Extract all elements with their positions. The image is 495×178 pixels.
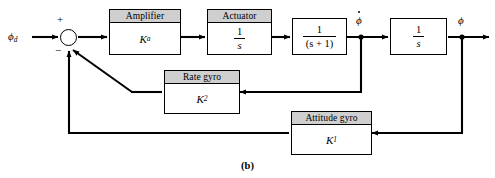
input-signal-label: ϕd: [8, 30, 17, 44]
block-rate-gyro: Rate gyro K2: [164, 70, 240, 114]
actuator-denominator: s: [234, 38, 244, 51]
junction-dot-phi: [459, 34, 464, 39]
junction-dot-phidot: [358, 34, 363, 39]
rate-signal-label: ϕ: [356, 14, 362, 26]
summing-junction: [60, 29, 77, 46]
block-integrator: 1 s: [390, 18, 447, 55]
actuator-numerator: 1: [234, 26, 245, 38]
output-signal-label: ϕ: [458, 14, 464, 26]
block-amplifier-header: Amplifier: [110, 10, 180, 23]
block-actuator-transfer-function: 1 s: [208, 23, 271, 54]
block-integrator-transfer-function: 1 s: [391, 19, 446, 54]
sum-plus-sign: +: [57, 13, 63, 25]
block-attitude-gyro-header: Attitude gyro: [292, 112, 371, 125]
integrator-numerator: 1: [413, 24, 424, 36]
block-plant-lag-transfer-function: 1 (s + 1): [293, 19, 346, 54]
wire-rategyro-diagonal-to-sum: [73, 50, 132, 92]
figure-caption: (b): [0, 160, 495, 171]
block-attitude-gyro-gain: K1: [292, 125, 371, 154]
block-diagram-figure: ϕd + − Amplifier Ka Actuator 1 s 1 (s + …: [0, 0, 495, 178]
plant-lag-denominator: (s + 1): [303, 36, 337, 49]
block-plant-lag: 1 (s + 1): [292, 18, 347, 55]
block-actuator: Actuator 1 s: [207, 9, 272, 55]
block-rate-gyro-header: Rate gyro: [165, 71, 239, 84]
block-actuator-header: Actuator: [208, 10, 271, 23]
block-amplifier-gain: Ka: [110, 23, 180, 54]
integrator-denominator: s: [413, 36, 423, 49]
block-rate-gyro-gain: K2: [165, 84, 239, 113]
sum-minus-sign: −: [55, 44, 61, 56]
plant-lag-numerator: 1: [314, 24, 325, 36]
block-amplifier: Amplifier Ka: [109, 9, 181, 55]
phi-dot-accent: [358, 11, 360, 13]
block-attitude-gyro: Attitude gyro K1: [291, 111, 372, 155]
